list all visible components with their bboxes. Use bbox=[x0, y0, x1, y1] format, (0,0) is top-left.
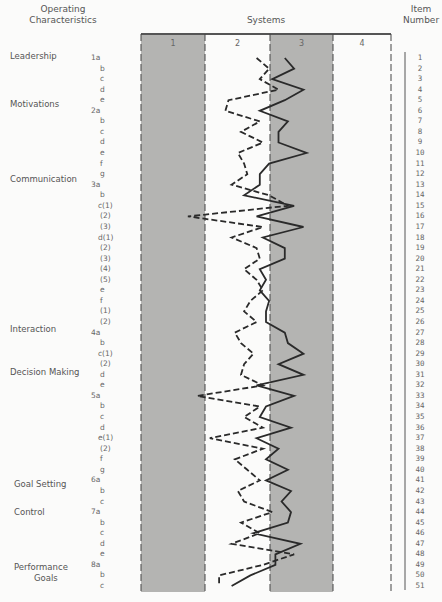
item-number: 29 bbox=[405, 349, 435, 358]
item-number: 38 bbox=[405, 444, 435, 453]
item-number: 28 bbox=[405, 338, 435, 347]
item-number: 44 bbox=[405, 507, 435, 516]
sub-item-label: b bbox=[100, 401, 105, 410]
sub-item-label: e bbox=[100, 549, 105, 558]
column-label: 3 bbox=[299, 39, 304, 48]
sub-item-label: 3a bbox=[91, 180, 100, 189]
profile-chart: 1234 bbox=[0, 0, 442, 602]
category-label: Motivations bbox=[10, 99, 59, 109]
item-number: 7 bbox=[405, 116, 435, 125]
sub-item-label: e(1) bbox=[98, 433, 113, 442]
sub-item-label: f bbox=[100, 454, 103, 463]
item-number: 16 bbox=[405, 211, 435, 220]
sub-item-label: 6a bbox=[91, 475, 100, 484]
item-number: 43 bbox=[405, 497, 435, 506]
item-number: 24 bbox=[405, 296, 435, 305]
item-number: 3 bbox=[405, 74, 435, 83]
sub-item-label: (2) bbox=[100, 317, 111, 326]
category-label: Decision Making bbox=[10, 367, 80, 377]
category-label: Interaction bbox=[10, 324, 56, 334]
category-label: Goal Setting bbox=[14, 479, 67, 489]
item-number: 30 bbox=[405, 359, 435, 368]
sub-item-label: c bbox=[100, 528, 104, 537]
item-number: 23 bbox=[405, 285, 435, 294]
item-number: 31 bbox=[405, 370, 435, 379]
sub-item-label: 1a bbox=[91, 53, 100, 62]
sub-item-label: (1) bbox=[100, 306, 111, 315]
category-label: Performance bbox=[14, 562, 68, 572]
sub-item-label: c(1) bbox=[98, 349, 113, 358]
sub-item-label: c(1) bbox=[98, 201, 113, 210]
sub-item-label: c bbox=[100, 497, 104, 506]
sub-item-label: b bbox=[100, 570, 105, 579]
item-number: 39 bbox=[405, 454, 435, 463]
sub-item-label: d bbox=[100, 137, 105, 146]
item-number: 9 bbox=[405, 137, 435, 146]
sub-item-label: e bbox=[100, 95, 105, 104]
sub-item-label: g bbox=[100, 465, 105, 474]
item-number: 50 bbox=[405, 570, 435, 579]
sub-item-label: b bbox=[100, 190, 105, 199]
item-number: 34 bbox=[405, 401, 435, 410]
item-number: 45 bbox=[405, 518, 435, 527]
item-number: 37 bbox=[405, 433, 435, 442]
sub-item-label: d bbox=[100, 423, 105, 432]
item-number: 21 bbox=[405, 264, 435, 273]
sub-item-label: d bbox=[100, 85, 105, 94]
item-number: 36 bbox=[405, 423, 435, 432]
item-number: 27 bbox=[405, 328, 435, 337]
item-number: 48 bbox=[405, 549, 435, 558]
sub-item-label: b bbox=[100, 64, 105, 73]
sub-item-label: (2) bbox=[100, 243, 111, 252]
item-number: 17 bbox=[405, 222, 435, 231]
item-number: 51 bbox=[405, 581, 435, 590]
item-number: 41 bbox=[405, 475, 435, 484]
item-number: 13 bbox=[405, 180, 435, 189]
sub-item-label: g bbox=[100, 169, 105, 178]
sub-item-label: f bbox=[100, 159, 103, 168]
item-number: 33 bbox=[405, 391, 435, 400]
sub-item-label: (4) bbox=[100, 264, 111, 273]
sub-item-label: d(1) bbox=[98, 233, 113, 242]
sub-item-label: 8a bbox=[91, 560, 100, 569]
sub-item-label: (2) bbox=[100, 444, 111, 453]
category-label: Control bbox=[14, 507, 45, 517]
item-number: 4 bbox=[405, 85, 435, 94]
item-number: 47 bbox=[405, 539, 435, 548]
item-number: 46 bbox=[405, 528, 435, 537]
item-number: 40 bbox=[405, 465, 435, 474]
sub-item-label: c bbox=[100, 581, 104, 590]
sub-item-label: b bbox=[100, 518, 105, 527]
item-number: 32 bbox=[405, 380, 435, 389]
sub-item-label: c bbox=[100, 74, 104, 83]
item-number: 2 bbox=[405, 64, 435, 73]
sub-item-label: e bbox=[100, 148, 105, 157]
item-number: 19 bbox=[405, 243, 435, 252]
item-number: 5 bbox=[405, 95, 435, 104]
sub-item-label: b bbox=[100, 338, 105, 347]
item-number: 12 bbox=[405, 169, 435, 178]
sub-item-label: d bbox=[100, 539, 105, 548]
item-number: 35 bbox=[405, 412, 435, 421]
item-number: 10 bbox=[405, 148, 435, 157]
category-label: Leadership bbox=[10, 51, 57, 61]
item-number: 11 bbox=[405, 159, 435, 168]
item-number: 6 bbox=[405, 106, 435, 115]
item-number: 49 bbox=[405, 560, 435, 569]
item-number: 26 bbox=[405, 317, 435, 326]
column-label: 1 bbox=[170, 39, 175, 48]
category-label: Goals bbox=[34, 573, 58, 583]
sub-item-label: d bbox=[100, 370, 105, 379]
shaded-column bbox=[141, 34, 205, 592]
sub-item-label: e bbox=[100, 380, 105, 389]
item-number: 8 bbox=[405, 127, 435, 136]
sub-item-label: 7a bbox=[91, 507, 100, 516]
sub-item-label: (3) bbox=[100, 222, 111, 231]
category-label: Communication bbox=[10, 174, 77, 184]
sub-item-label: b bbox=[100, 116, 105, 125]
sub-item-label: (2) bbox=[100, 359, 111, 368]
item-number: 1 bbox=[405, 53, 435, 62]
item-number: 18 bbox=[405, 233, 435, 242]
sub-item-label: c bbox=[100, 127, 104, 136]
item-number: 42 bbox=[405, 486, 435, 495]
